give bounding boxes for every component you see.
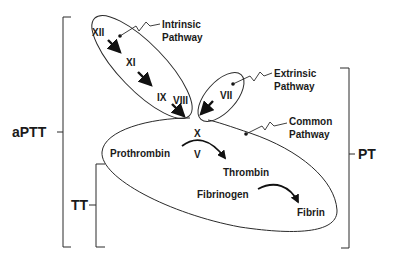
common-label-line1: Common [289, 115, 332, 128]
factor-viii: VIII [173, 96, 188, 106]
tt-bracket [89, 164, 105, 247]
prothrombin-label: Prothrombin [110, 149, 170, 159]
factor-ix: IX [157, 93, 166, 103]
intrinsic-label-line1: Intrinsic [162, 18, 203, 31]
common-pathway-label: Common Pathway [289, 115, 332, 141]
pt-label: PT [358, 147, 376, 161]
aptt-bracket [57, 17, 71, 247]
factor-vii: VII [220, 91, 232, 101]
cascade-arrows [108, 40, 213, 116]
fibrinogen-label: Fibrinogen [197, 190, 249, 200]
arrow-xi-to-ix [138, 72, 151, 85]
extrinsic-label-line1: Extrinsic [274, 67, 316, 80]
common-label-line2: Pathway [289, 128, 332, 141]
coagulation-diagram: aPTT TT PT Intrinsic Pathway Extrinsic P… [0, 0, 395, 261]
pt-bracket [340, 68, 355, 248]
arrow-xii-to-xi [108, 40, 120, 52]
arrow-fibrinogen-to-fibrin [258, 185, 298, 202]
arrow-vii-to-x [201, 101, 213, 114]
extrinsic-label-line2: Pathway [274, 80, 316, 93]
thrombin-label: Thrombin [223, 168, 269, 178]
aptt-label: aPTT [12, 125, 46, 139]
intrinsic-callout [118, 22, 160, 38]
fibrin-label: Fibrin [297, 208, 325, 218]
arrow-prothrombin-to-thrombin [182, 140, 225, 158]
factor-xii: XII [92, 28, 104, 38]
intrinsic-pathway-label: Intrinsic Pathway [162, 18, 203, 44]
factor-xi: XI [126, 58, 135, 68]
extrinsic-pathway-label: Extrinsic Pathway [274, 67, 316, 93]
tt-label: TT [71, 198, 88, 212]
factor-x: X [194, 129, 201, 139]
extrinsic-callout [231, 72, 272, 86]
intrinsic-label-line2: Pathway [162, 31, 203, 44]
factor-v: V [194, 150, 201, 160]
